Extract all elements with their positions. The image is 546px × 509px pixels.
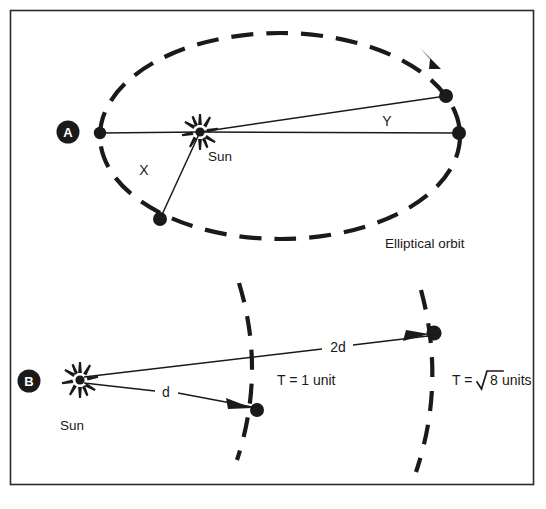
orbit-point-perihelion xyxy=(452,126,466,140)
radius-to-aphelion xyxy=(100,132,200,133)
panel-a-group: A Sun X Y Elliptical orbit xyxy=(57,33,467,251)
distance-label-2d: 2d xyxy=(330,339,346,355)
panel-b-badge: B xyxy=(18,370,41,393)
period-label-near: T = 1 unit xyxy=(277,372,336,388)
panel-a-sun-label: Sun xyxy=(208,149,232,164)
far-orbit-arc xyxy=(416,290,432,472)
period-far-radicand: 8 xyxy=(490,372,498,388)
area-label-x: X xyxy=(139,162,149,178)
far-orbit-planet xyxy=(426,325,441,340)
orbit-point-sweep-y-upper xyxy=(439,89,453,103)
panel-b-badge-label: B xyxy=(24,374,33,389)
panel-b-sun-label: Sun xyxy=(60,418,84,433)
period-far-suffix: units xyxy=(502,372,532,388)
orbit-point-sweep-x xyxy=(153,212,167,226)
panel-a-badge-label: A xyxy=(63,125,73,140)
near-orbit-arc xyxy=(237,283,252,460)
elliptical-orbit-path xyxy=(100,33,460,239)
diagram-canvas: A Sun X Y Elliptical orbit xyxy=(0,0,546,509)
orbit-point-aphelion xyxy=(94,127,106,139)
radius-to-sweep-y-upper xyxy=(200,96,446,132)
distance-label-d: d xyxy=(162,384,170,400)
panel-b-group: B Sun d 2d T = 1 unit T = 8 units xyxy=(18,283,532,472)
near-planet-arrowhead xyxy=(226,398,252,409)
elliptical-orbit-caption: Elliptical orbit xyxy=(385,236,465,251)
radius-to-perihelion xyxy=(200,132,459,133)
period-label-far: T = 8 units xyxy=(452,371,532,389)
orbital-diagram-figure: A Sun X Y Elliptical orbit xyxy=(0,0,546,509)
near-orbit-planet xyxy=(250,403,264,417)
sun-icon xyxy=(62,362,99,398)
orbit-direction-arrowhead xyxy=(420,48,441,69)
panel-a-badge: A xyxy=(57,121,80,144)
distance-line-2d-right xyxy=(353,336,428,345)
area-label-y: Y xyxy=(382,113,392,129)
period-far-prefix: T = xyxy=(452,372,472,388)
far-planet-arrowhead xyxy=(403,330,429,341)
radius-to-sweep-x-point xyxy=(160,132,200,219)
